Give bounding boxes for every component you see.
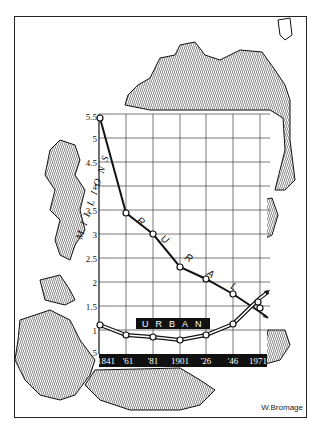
svg-text:'46: '46 (228, 356, 239, 366)
svg-text:2: 2 (93, 278, 98, 288)
svg-text:3: 3 (93, 230, 98, 240)
svg-text:1.5: 1.5 (86, 302, 98, 312)
svg-text:5.5: 5.5 (86, 112, 98, 122)
svg-text:1: 1 (93, 326, 98, 336)
svg-text:1901: 1901 (171, 356, 189, 366)
svg-text:1841: 1841 (97, 356, 115, 366)
svg-text:1971: 1971 (249, 356, 267, 366)
chart-svg: 5.5 5 4.5 4 3.5 3 2.5 2 1.5 1 .5 MILLION… (0, 0, 323, 438)
svg-text:2.5: 2.5 (86, 254, 98, 264)
urban-label: URBAN (142, 319, 209, 329)
credit-text: W.Bromage (261, 403, 303, 412)
svg-text:'61: '61 (123, 356, 134, 366)
svg-text:5: 5 (93, 134, 98, 144)
svg-text:'26: '26 (201, 356, 212, 366)
svg-text:'81: '81 (148, 356, 159, 366)
y-tick-labels: 5.5 5 4.5 4 3.5 3 2.5 2 1.5 1 .5 (86, 112, 98, 358)
